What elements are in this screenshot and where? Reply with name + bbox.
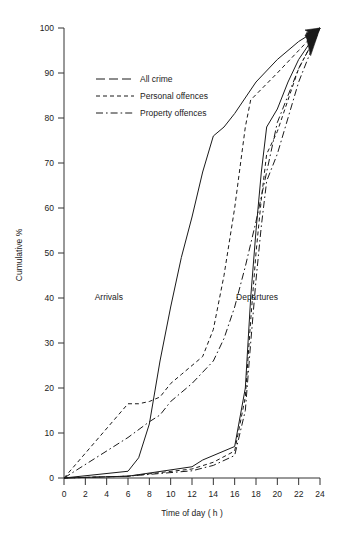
annotation-departures: Departures [236,292,278,302]
y-tick-label: 40 [45,293,55,303]
x-tick-label: 22 [294,489,304,499]
x-tick-label: 12 [187,489,197,499]
x-tick-label: 8 [147,489,152,499]
legend-label-personal-offences: Personal offences [140,91,208,101]
y-tick-label: 80 [45,113,55,123]
x-tick-label: 24 [315,489,325,499]
legend-label-property-offences: Property offences [140,108,206,118]
y-tick-label: 50 [45,248,55,258]
x-tick-label: 10 [166,489,176,499]
x-axis-title: Time of day ( h ) [161,508,223,518]
y-tick-label: 90 [45,68,55,78]
y-tick-label: 30 [45,338,55,348]
x-tick-label: 2 [83,489,88,499]
x-tick-label: 16 [230,489,240,499]
x-tick-label: 20 [273,489,283,499]
annotation-arrivals: Arrivals [95,292,123,302]
legend-label-all-crime: All crime [140,74,173,84]
cumulative-percent-line-chart: 0102030405060708090100 02468101214161820… [0,0,350,542]
y-tick-label: 20 [45,383,55,393]
y-tick-label: 10 [45,428,55,438]
x-tick-label: 18 [251,489,261,499]
x-axis-ticks: 024681012141618202224 [62,478,325,499]
chart-figure: 0102030405060708090100 02468101214161820… [0,0,350,542]
x-tick-label: 14 [209,489,219,499]
y-tick-label: 60 [45,203,55,213]
legend: All crimePersonal offencesProperty offen… [96,74,208,118]
y-axis-ticks: 0102030405060708090100 [40,23,64,483]
y-tick-label: 0 [49,473,54,483]
y-tick-label: 70 [45,158,55,168]
x-tick-label: 6 [126,489,131,499]
y-axis-title: Cumulative % [14,228,24,281]
x-tick-label: 0 [62,489,67,499]
y-tick-label: 100 [40,23,54,33]
x-tick-label: 4 [104,489,109,499]
